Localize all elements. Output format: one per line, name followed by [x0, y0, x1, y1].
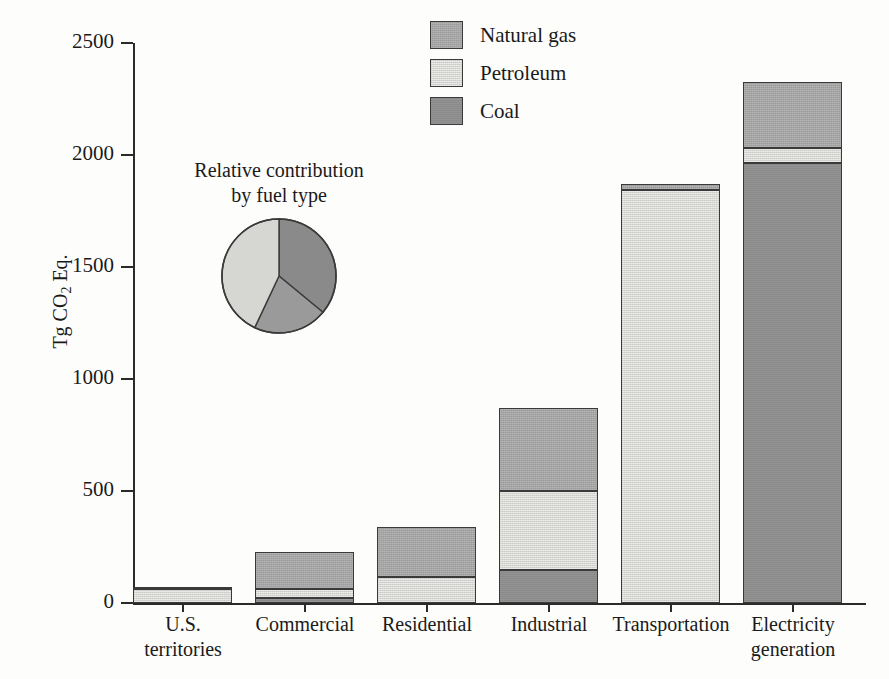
legend-item-label: Petroleum — [480, 63, 566, 84]
y-axis-title: Tg CO2 Eq. — [49, 222, 72, 382]
x-axis-tick — [304, 603, 306, 612]
bar-segment-natural-gas[interactable] — [621, 184, 720, 190]
x-axis-tick — [792, 603, 794, 612]
pie-title-line-1: Relative contribution — [186, 158, 372, 183]
y-axis-tick — [121, 42, 133, 44]
y-axis-tick — [121, 490, 133, 492]
x-axis-tick — [548, 603, 550, 612]
legend-item[interactable]: Coal — [430, 92, 576, 130]
y-axis-title-post: Eq. — [49, 254, 71, 286]
pie-chart-svg — [220, 217, 338, 335]
bar-segment-natural-gas[interactable] — [133, 587, 232, 589]
bar-transportation[interactable] — [622, 184, 721, 603]
x-axis-tick — [426, 603, 428, 612]
natural-gas-swatch — [430, 21, 463, 49]
pie-chart-title: Relative contribution by fuel type — [186, 158, 372, 208]
bar-segment-petroleum[interactable] — [377, 577, 476, 603]
y-axis-tick — [121, 154, 133, 156]
bar-u-s-territories[interactable] — [134, 587, 233, 603]
figure-stacked-bar-chart: 05001000150020002500 Tg CO2 Eq. U.S.terr… — [0, 0, 889, 679]
pie-title-line-2: by fuel type — [186, 183, 372, 208]
bar-electricity-generation[interactable] — [744, 82, 843, 603]
bar-segment-natural-gas[interactable] — [499, 408, 598, 491]
y-axis-tick-label: 0 — [46, 591, 114, 612]
x-axis-label-line: territories — [108, 637, 258, 662]
x-axis-line — [133, 603, 866, 605]
bar-segment-petroleum[interactable] — [499, 491, 598, 570]
x-axis-tick — [182, 603, 184, 612]
legend-item[interactable]: Petroleum — [430, 54, 576, 92]
x-axis-label: Electricitygeneration — [718, 612, 868, 662]
y-axis-tick-label: 2500 — [46, 31, 114, 52]
petroleum-swatch — [430, 59, 463, 87]
bar-segment-natural-gas[interactable] — [377, 527, 476, 577]
bar-segment-petroleum[interactable] — [621, 190, 720, 603]
y-axis-title-subscript: 2 — [59, 287, 74, 294]
inset-pie-chart: Relative contribution by fuel type — [186, 158, 372, 335]
bar-segment-petroleum[interactable] — [255, 589, 354, 598]
bar-commercial[interactable] — [256, 552, 355, 603]
y-axis-title-pre: Tg CO — [49, 294, 71, 349]
bar-segment-natural-gas[interactable] — [743, 82, 842, 148]
legend-item[interactable]: Natural gas — [430, 16, 576, 54]
legend: Natural gasPetroleumCoal — [430, 16, 576, 130]
y-axis-tick-label: 500 — [46, 479, 114, 500]
x-axis-label-line: generation — [718, 637, 868, 662]
legend-item-label: Natural gas — [480, 25, 576, 46]
y-axis-tick — [121, 266, 133, 268]
legend-item-label: Coal — [480, 101, 520, 122]
y-axis-tick — [121, 602, 133, 604]
y-axis-tick — [121, 378, 133, 380]
bar-segment-coal[interactable] — [499, 570, 598, 603]
x-axis-label-line: Electricity — [718, 612, 868, 637]
bar-segment-petroleum[interactable] — [133, 589, 232, 603]
bar-segment-coal[interactable] — [743, 163, 842, 603]
bar-segment-natural-gas[interactable] — [255, 552, 354, 589]
x-axis-tick — [670, 603, 672, 612]
bar-industrial[interactable] — [500, 408, 599, 603]
pie-chart-canvas — [220, 217, 338, 335]
y-axis-tick-label: 2000 — [46, 143, 114, 164]
coal-swatch — [430, 97, 463, 125]
bar-segment-petroleum[interactable] — [743, 148, 842, 163]
bar-residential[interactable] — [378, 527, 477, 603]
y-axis-line — [133, 43, 135, 605]
